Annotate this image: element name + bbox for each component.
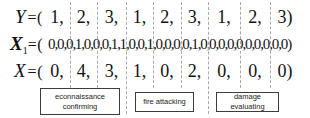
x-value: 0, [153,59,181,83]
equation-row-y: Y=( 1,2,3,1,2,3,1,2,3) [0,5,310,29]
gene-bit: 0, [218,32,227,56]
gene-bit: 1, [146,32,155,56]
equals-open-paren: =( [28,36,43,53]
task-box-label: econnaissance [55,92,105,102]
variable-x: X [14,60,26,81]
gene-bit: 0, [245,32,254,56]
gene-bit: 1, [120,32,129,56]
y-value: 1, [208,5,240,29]
task-box-damage-evaluating: damage evaluating [216,92,279,112]
gene-bit: 0, [84,32,93,56]
column-separator-line [181,2,182,88]
y-value: 3, [97,5,126,29]
gene-bit: 1, [75,32,84,56]
gene-bit: 0) [281,32,290,56]
gene-bit: 0, [209,32,218,56]
column-separator-line-long [126,2,127,114]
x-value: 0, [208,59,240,83]
y-value: 2, [153,5,181,29]
gene-bit: 0, [272,32,281,56]
x-value: 1, [126,59,153,83]
y-value: 2, [70,5,97,29]
gene-bit: 0, [102,32,111,56]
gene-bit: 0, [227,32,236,56]
column-separator-line [153,2,154,88]
task-box-reconnaissance-confirming: econnaissance confirming [40,88,120,115]
x-value: 3, [97,59,126,83]
gene-bit: 0, [48,32,57,56]
gene-bit: 1, [111,32,120,56]
x-value: 2, [181,59,208,83]
y-value: 2, [240,5,270,29]
equation-row-x1: X1=( 0,0,0,1,0,0,0,1,1,0,0,1,0,0,0,0,1,0… [0,32,310,56]
column-separator-line [70,2,71,88]
column-separator-line [270,2,271,88]
column-separator-line-long [208,2,209,114]
gene-bit: 0, [182,32,191,56]
task-box-fire-attacking: fire attacking [135,92,194,112]
y-value: 3, [181,5,208,29]
gene-bit: 0, [155,32,164,56]
x-value: 0) [270,59,300,83]
y-value: 3) [270,5,300,29]
equation-row-x: X=( 0,4,3,1,0,2,0,0,0) [0,59,310,83]
gene-bit: 1, [191,32,200,56]
gene-bit: 0, [57,32,66,56]
row-label-x: X=( [14,59,43,83]
gene-bit: 0, [138,32,147,56]
figure-canvas: Y=( 1,2,3,1,2,3,1,2,3) X1=( 0,0,0,1,0,0,… [0,0,310,118]
variable-x1: X [10,33,23,54]
column-separator-line [97,2,98,88]
row-label-x1: X1=( [10,32,43,56]
gene-bit: 0, [254,32,263,56]
row-label-y: Y=( [15,5,43,29]
y-value: 1, [126,5,153,29]
task-box-label: fire attacking [143,97,186,107]
equals-open-paren: =( [28,9,43,26]
column-separator-line [240,2,241,88]
x-value: 0, [44,59,70,83]
task-box-label: confirming [63,102,98,112]
x-value: 0, [240,59,270,83]
y-value: 1, [44,5,70,29]
x-value: 4, [70,59,97,83]
gene-bit: 0, [129,32,138,56]
variable-y: Y [15,6,26,27]
task-box-label: damage evaluating [217,92,278,112]
equals-open-paren: =( [28,63,43,80]
gene-bit: 0, [164,32,173,56]
